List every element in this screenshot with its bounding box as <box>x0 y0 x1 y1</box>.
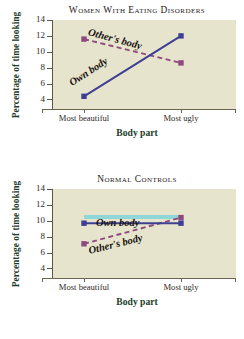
data-point-own-body-most-ugly <box>178 221 183 226</box>
data-point-own-body-most-ugly <box>178 33 183 38</box>
x-tick-label-most-ugly: Most ugly <box>147 282 215 292</box>
figure-two-panel-line-charts: Women With Eating Disorders Percentage o… <box>0 0 244 339</box>
panel-title: Normal Controls <box>34 174 240 184</box>
x-tick-label-most-ugly: Most ugly <box>147 113 215 123</box>
x-tick-end <box>235 109 236 113</box>
series-plot <box>53 189 236 278</box>
x-axis-title: Body part <box>34 296 240 307</box>
y-tick-label-14: 14 <box>5 15 45 24</box>
y-tick-label-4: 4 <box>5 264 45 273</box>
x-tick-label-most-beautiful: Most beautiful <box>44 113 124 123</box>
x-tick-start <box>42 109 43 113</box>
x-tick-end <box>235 278 236 282</box>
y-tick-label-10: 10 <box>5 47 45 56</box>
x-axis-line <box>42 278 236 279</box>
y-tick-label-12: 12 <box>5 200 45 209</box>
y-tick-label-14: 14 <box>5 184 45 193</box>
data-point-others-body-most-ugly <box>178 60 183 65</box>
panel-title: Women With Eating Disorders <box>34 5 240 15</box>
x-tick-label-most-beautiful: Most beautiful <box>44 282 124 292</box>
y-tick-label-8: 8 <box>5 63 45 72</box>
series-plot <box>53 20 236 109</box>
y-tick-label-6: 6 <box>5 248 45 257</box>
y-tick-label-8: 8 <box>5 232 45 241</box>
y-tick-label-12: 12 <box>5 31 45 40</box>
y-tick-label-10: 10 <box>5 216 45 225</box>
series-annotation-own-body: Own body <box>96 217 139 228</box>
data-point-others-body-most-ugly <box>178 215 183 220</box>
data-point-own-body-most-beautiful <box>81 94 86 99</box>
y-tick-label-4: 4 <box>5 95 45 104</box>
x-tick-start <box>42 278 43 282</box>
y-tick-label-6: 6 <box>5 79 45 88</box>
data-point-own-body-most-beautiful <box>81 221 86 226</box>
panel-normal-controls: Normal Controls Percentage of time looki… <box>0 169 244 339</box>
data-point-others-body-most-beautiful <box>81 241 86 246</box>
panel-women-with-eating-disorders: Women With Eating Disorders Percentage o… <box>0 0 244 170</box>
x-axis-title: Body part <box>34 127 240 138</box>
x-axis-line <box>42 109 236 110</box>
data-point-others-body-most-beautiful <box>81 36 86 41</box>
